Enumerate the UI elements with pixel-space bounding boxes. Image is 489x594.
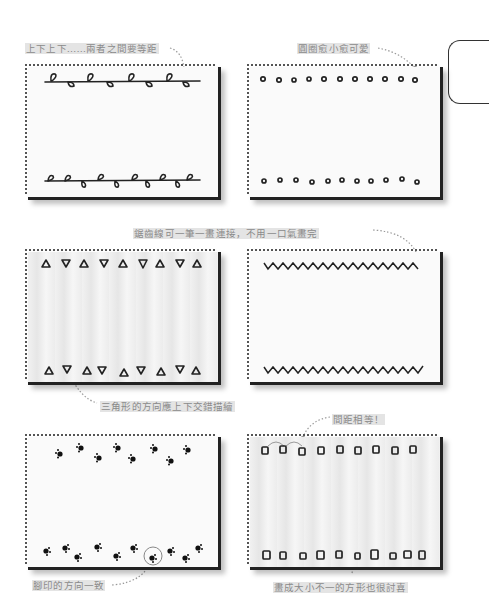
square-border-icon [247,434,443,570]
panel-triangles [25,249,221,385]
circle-border-icon [247,64,443,200]
paw-print-border-icon [25,434,221,570]
panel-small-circles [247,64,443,200]
leaf-vine-icon [25,64,221,200]
panel-paw-prints [25,434,221,570]
panel-leaf-vine [25,64,221,200]
zigzag-border-icon [247,249,443,385]
panel-squares [247,434,443,570]
triangle-border-icon [25,249,221,385]
panel-zigzag [247,249,443,385]
